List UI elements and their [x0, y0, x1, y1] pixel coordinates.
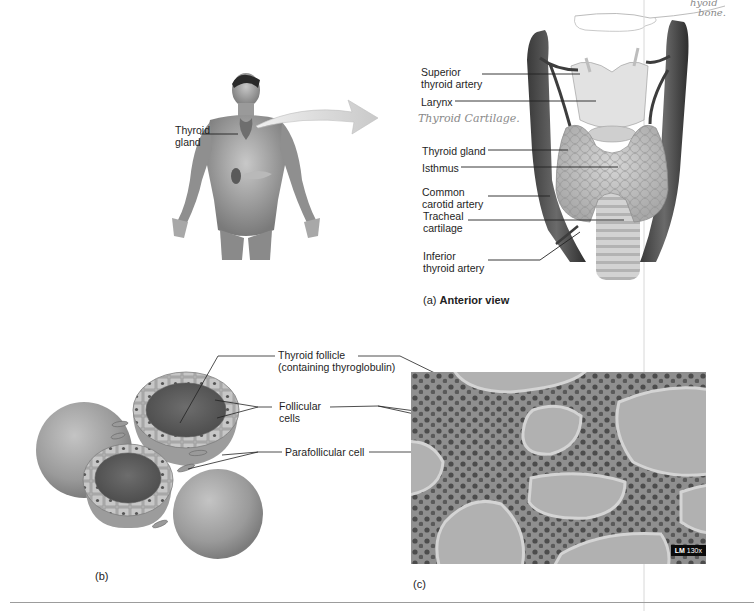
label-tracheal-cartilage: Tracheal cartilage	[423, 210, 463, 234]
label-inferior-thyroid-artery: Inferior thyroid artery	[423, 250, 484, 274]
panel-a-body-figure	[150, 70, 340, 260]
handwritten-thyroid-cartilage: Thyroid Cartilage.	[418, 112, 520, 125]
bottom-divider	[10, 602, 754, 603]
label-superior-thyroid-artery: Superior thyroid artery	[421, 66, 482, 90]
label-thyroid-follicle: Thyroid follicle (containing thyroglobul…	[278, 349, 395, 373]
label-isthmus: Isthmus	[422, 162, 459, 174]
label-parafollicular-cell: Parafollicular cell	[285, 446, 364, 458]
caption-panel-a: (a) Anterior view	[423, 294, 509, 306]
human-body-illustration	[150, 70, 340, 260]
body-thyroid-label: Thyroid gland	[175, 124, 210, 148]
micrograph: LM 130x	[411, 372, 706, 564]
caption-panel-b: (b)	[95, 570, 108, 582]
magnification-badge: LM 130x	[671, 545, 706, 556]
caption-panel-c: (c)	[413, 578, 426, 590]
label-thyroid-gland: Thyroid gland	[422, 145, 486, 157]
micrograph-tissue	[411, 372, 706, 564]
handwritten-hyoid-bone: hyoid bone.	[690, 0, 726, 18]
label-larynx: Larynx	[421, 96, 453, 108]
label-follicular-cells: Follicular cells	[279, 400, 321, 424]
label-common-carotid-artery: Common carotid artery	[422, 186, 483, 210]
